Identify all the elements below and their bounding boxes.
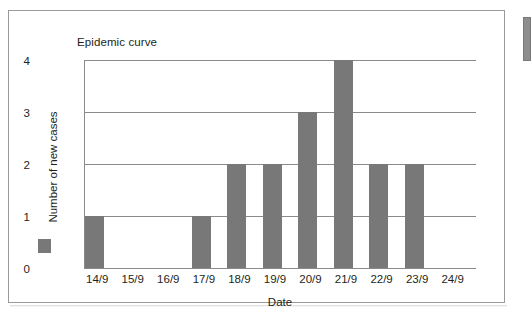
x-tick-label: 19/9: [263, 273, 299, 285]
bar[interactable]: [85, 216, 104, 268]
legend-swatch-icon: [38, 239, 51, 253]
chart-title: Epidemic curve: [77, 36, 157, 48]
bar-slot: [440, 61, 476, 268]
x-tick-label: 24/9: [440, 273, 476, 285]
y-tick-label: 4: [8, 55, 30, 67]
y-tick-label: 3: [8, 107, 30, 119]
figure-frame: Epidemic curve Number of new cases 01234…: [8, 10, 505, 303]
bar-slot: [298, 61, 334, 268]
frame-shadow: [10, 305, 507, 307]
y-tick-label: 2: [8, 159, 30, 171]
bar-slot: [121, 61, 157, 268]
bar-slot: [192, 61, 228, 268]
bar-slot: [334, 61, 370, 268]
bar[interactable]: [298, 112, 317, 268]
bar[interactable]: [227, 164, 246, 268]
bar-slot: [227, 61, 263, 268]
x-tick-label: 16/9: [156, 273, 192, 285]
x-tick-label: 23/9: [405, 273, 441, 285]
bar[interactable]: [405, 164, 424, 268]
x-tick-labels: 14/915/916/917/918/919/920/921/922/923/9…: [85, 273, 476, 285]
plot-area: [84, 61, 476, 269]
scrollbar-thumb[interactable]: [523, 17, 531, 61]
x-tick-label: 17/9: [192, 273, 228, 285]
bar-slot: [156, 61, 192, 268]
bars-layer: [85, 61, 476, 268]
y-tick-label: 0: [8, 263, 30, 275]
bar[interactable]: [334, 60, 353, 268]
x-tick-label: 15/9: [121, 273, 157, 285]
bar-slot: [369, 61, 405, 268]
x-tick-label: 20/9: [298, 273, 334, 285]
x-tick-label: 14/9: [85, 273, 121, 285]
x-tick-label: 18/9: [227, 273, 263, 285]
gridline: [84, 268, 476, 269]
y-axis-title: Number of new cases: [47, 87, 59, 247]
bar[interactable]: [263, 164, 282, 268]
bar[interactable]: [369, 164, 388, 268]
y-tick-label: 1: [8, 211, 30, 223]
bar[interactable]: [192, 216, 211, 268]
bar-slot: [263, 61, 299, 268]
x-tick-label: 22/9: [369, 273, 405, 285]
x-tick-label: 21/9: [334, 273, 370, 285]
bar-slot: [405, 61, 441, 268]
bar-slot: [85, 61, 121, 268]
